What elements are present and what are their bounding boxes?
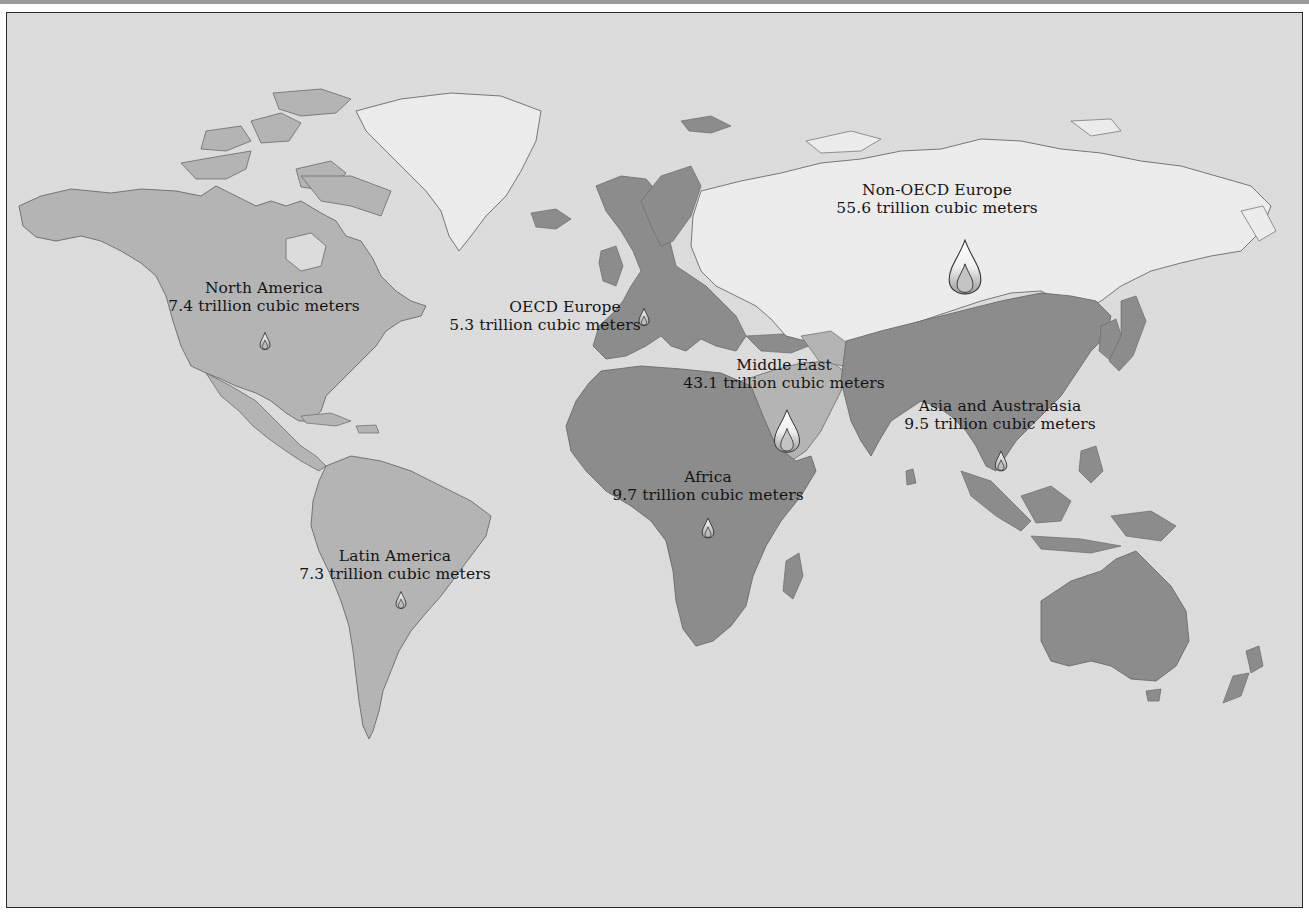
region-name: Africa (612, 468, 804, 486)
region-name: Asia and Australasia (904, 397, 1096, 415)
region-value: 7.3 trillion cubic meters (299, 565, 491, 583)
region-value: 55.6 trillion cubic meters (836, 199, 1038, 217)
region-label-non-oecd-europe: Non-OECD Europe 55.6 trillion cubic mete… (836, 181, 1038, 217)
world-map (7, 13, 1302, 907)
region-label-north-america: North America 7.4 trillion cubic meters (168, 279, 360, 315)
top-band (0, 0, 1309, 4)
region-label-africa: Africa 9.7 trillion cubic meters (612, 468, 804, 504)
region-name: OECD Europe (449, 298, 641, 316)
flame-icon (772, 405, 802, 457)
region-value: 9.5 trillion cubic meters (904, 415, 1096, 433)
region-label-asia-australasia: Asia and Australasia 9.5 trillion cubic … (904, 397, 1096, 433)
region-name: Middle East (683, 356, 885, 374)
flame-icon (701, 517, 715, 539)
region-name: Non-OECD Europe (836, 181, 1038, 199)
region-value: 5.3 trillion cubic meters (449, 316, 641, 334)
flame-icon (395, 590, 407, 610)
flame-icon (259, 332, 271, 350)
region-label-oecd-europe: OECD Europe 5.3 trillion cubic meters (449, 298, 641, 334)
map-frame: North America 7.4 trillion cubic meters … (6, 12, 1303, 908)
region-label-middle-east: Middle East 43.1 trillion cubic meters (683, 356, 885, 392)
region-value: 7.4 trillion cubic meters (168, 297, 360, 315)
region-value: 43.1 trillion cubic meters (683, 374, 885, 392)
region-name: Latin America (299, 547, 491, 565)
region-value: 9.7 trillion cubic meters (612, 486, 804, 504)
region-label-latin-america: Latin America 7.3 trillion cubic meters (299, 547, 491, 583)
flame-icon (638, 308, 650, 326)
flame-icon (946, 234, 984, 300)
flame-icon (994, 450, 1008, 472)
region-name: North America (168, 279, 360, 297)
